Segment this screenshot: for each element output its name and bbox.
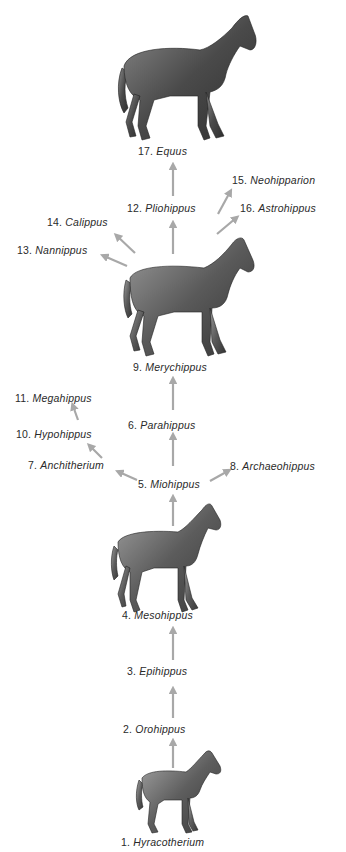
taxon-label-orohippus: 2. Orohippus	[123, 723, 186, 735]
taxon-label-hypohippus: 10. Hypohippus	[16, 428, 92, 440]
mesohippus-illustration	[108, 502, 224, 614]
arrow-miohippus-to-archaeohippus	[210, 471, 228, 481]
taxon-label-mesohippus: 4. Mesohippus	[122, 609, 193, 621]
arrow-merychippus-to-neohipparion	[218, 192, 230, 214]
taxon-label-pliohippus: 12. Pliohippus	[127, 202, 196, 214]
taxon-label-nannippus: 13. Nannippus	[17, 244, 87, 256]
taxon-label-hyracotherium: 1. Hyracotherium	[121, 836, 204, 848]
equus-illustration	[110, 8, 260, 146]
taxon-label-megahippus: 11. Megahippus	[15, 392, 92, 404]
arrow-hypohippus-to-megahippus	[73, 406, 78, 420]
arrow-merychippus-to-astrohippus	[217, 218, 236, 234]
taxon-label-parahippus: 6. Parahippus	[128, 419, 195, 431]
taxon-label-epihippus: 3. Epihippus	[127, 665, 187, 677]
arrow-miohippus-to-anchitherium	[119, 472, 137, 480]
taxon-label-calippus: 14. Calippus	[47, 216, 108, 228]
taxon-label-archaeohippus: 8. Archaeohippus	[230, 460, 315, 472]
taxon-label-astrohippus: 16. Astrohippus	[240, 202, 316, 214]
taxon-label-anchitherium: 7. Anchitherium	[28, 459, 104, 471]
arrow-anchitherium-to-hypohippus	[90, 446, 102, 458]
merychippus-illustration	[120, 236, 260, 358]
taxon-label-merychippus: 9. Merychippus	[133, 361, 207, 373]
taxon-label-equus: 17. Equus	[138, 145, 187, 157]
hyracotherium-illustration	[134, 750, 224, 834]
taxon-label-miohippus: 5. Miohippus	[138, 478, 200, 490]
taxon-label-neohipparion: 15. Neohipparion	[232, 174, 315, 186]
